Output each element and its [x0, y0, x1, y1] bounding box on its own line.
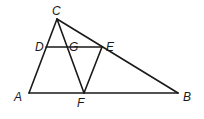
label-c: C [52, 4, 61, 18]
label-a: A [13, 90, 22, 104]
label-g: G [69, 40, 78, 54]
segment-bc [57, 19, 178, 93]
label-d: D [35, 40, 44, 54]
segment-cf [57, 19, 84, 93]
segment-ca [29, 19, 57, 93]
label-e: E [106, 40, 115, 54]
label-b: B [183, 90, 191, 104]
label-f: F [77, 96, 85, 110]
triangle-diagram: C D G E A F B [0, 0, 204, 119]
segment-ef [84, 47, 102, 93]
